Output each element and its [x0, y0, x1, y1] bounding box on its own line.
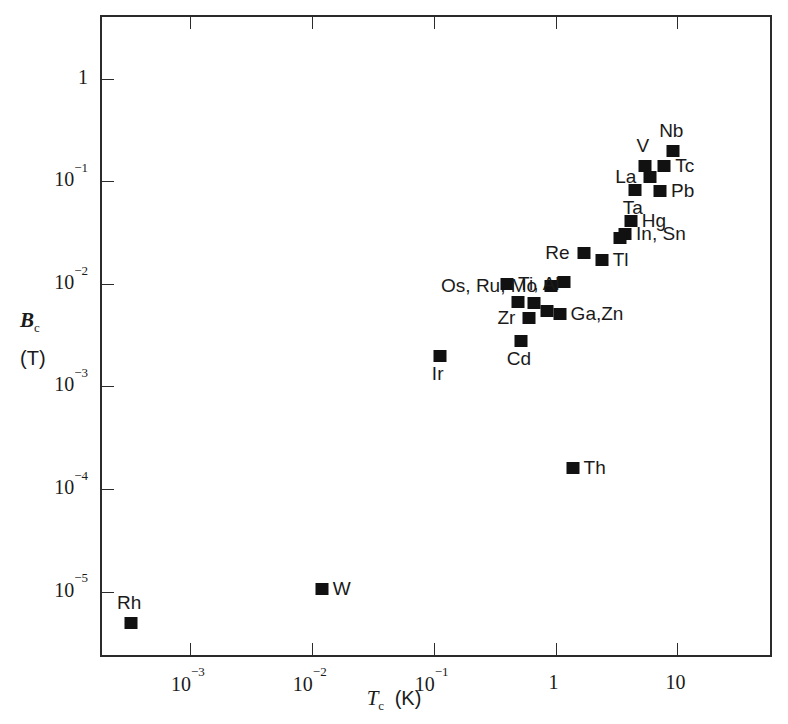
data-point-marker [540, 305, 553, 317]
y-tick-mark [101, 284, 114, 285]
y-tick-label: 10−5 [54, 577, 88, 602]
data-point-label: Ta [623, 197, 643, 219]
data-point-marker [595, 254, 608, 266]
x-tick-mark-top [434, 16, 435, 29]
x-tick-mark-top [312, 16, 313, 29]
data-point-label: La [615, 166, 636, 188]
x-tick-mark-top [556, 16, 557, 29]
x-tick-label: 1 [549, 671, 559, 694]
x-tick-mark-top [190, 16, 191, 29]
data-point-marker [553, 308, 566, 320]
data-point-marker [527, 297, 540, 309]
data-point-label: Zr [497, 307, 515, 329]
y-tick-label: 10−4 [54, 475, 88, 500]
data-point-label: W [333, 578, 351, 600]
data-point-marker [566, 462, 579, 474]
data-point-label: V [636, 135, 649, 157]
data-point-marker [658, 160, 671, 172]
x-tick-mark [677, 643, 678, 656]
data-point-label: Cd [507, 348, 531, 370]
y-tick-mark [101, 489, 114, 490]
y-tick-label: 10−3 [54, 372, 88, 397]
data-point-label: Tl [613, 249, 629, 271]
data-point-label: Ir [432, 363, 444, 385]
data-point-label: Rh [117, 592, 141, 614]
x-tick-label: 10−1 [415, 671, 449, 696]
data-point-marker [433, 350, 446, 362]
y-tick-mark [101, 181, 114, 182]
y-axis-symbol: Bc [20, 305, 46, 343]
x-tick-mark [312, 643, 313, 656]
data-point-marker [653, 185, 666, 197]
x-tick-label: 10−3 [171, 671, 205, 696]
y-tick-label: 1 [78, 65, 88, 88]
x-tick-mark [190, 643, 191, 656]
x-tick-mark [434, 643, 435, 656]
data-point-marker [558, 276, 571, 288]
x-tick-mark [556, 643, 557, 656]
y-tick-label: 10−1 [54, 167, 88, 192]
data-point-marker [315, 583, 328, 595]
data-point-marker [577, 247, 590, 259]
data-point-label: Ti, Al [518, 273, 560, 295]
y-tick-mark [101, 386, 114, 387]
plot-area [100, 15, 772, 657]
data-point-marker [614, 232, 627, 244]
data-point-label: Re [545, 242, 569, 264]
data-point-marker [523, 312, 536, 324]
data-point-marker [644, 171, 657, 183]
data-point-marker [638, 160, 651, 172]
y-tick-mark [101, 79, 114, 80]
x-tick-mark-top [677, 16, 678, 29]
x-tick-label: 10 [665, 671, 685, 694]
data-point-label: Pb [671, 180, 694, 202]
y-axis-unit: (T) [20, 343, 46, 374]
data-point-marker [125, 617, 138, 629]
data-point-label: Hg [642, 210, 666, 232]
data-point-label: Nb [659, 120, 683, 142]
data-point-marker [514, 335, 527, 347]
data-point-label: Tc [675, 155, 694, 177]
x-tick-label: 10−2 [293, 671, 327, 696]
data-point-label: Ga,Zn [571, 303, 624, 325]
data-point-label: Th [584, 457, 606, 479]
y-axis-title: Bc (T) [20, 305, 46, 374]
superconductor-critical-field-chart: Bc (T) Tc (K) 110−110−210−310−410−510−31… [0, 0, 788, 724]
y-tick-label: 10−2 [54, 270, 88, 295]
y-tick-mark [101, 592, 114, 593]
